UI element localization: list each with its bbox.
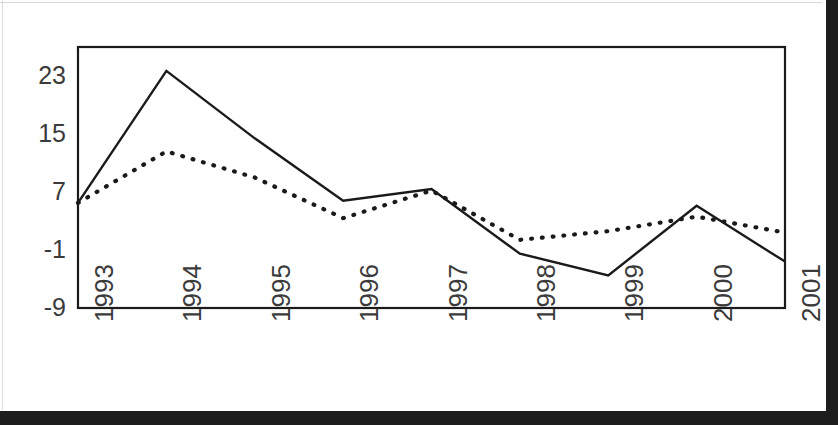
y-tick-label: -1 <box>14 235 66 264</box>
chart-plot-svg <box>0 0 826 411</box>
y-tick-label: 23 <box>14 61 66 90</box>
x-tick-label: 2000 <box>708 264 739 322</box>
x-tick-label: 1995 <box>266 264 297 322</box>
y-tick-label: 7 <box>14 177 66 206</box>
x-tick-label: 1997 <box>443 264 474 322</box>
x-tick-label: 1994 <box>177 264 208 322</box>
series-line-solid <box>78 71 785 275</box>
x-tick-label: 1996 <box>354 264 385 322</box>
x-tick-label: 1993 <box>89 264 120 322</box>
scanned-page: -9-171523 199319941995199619971998199920… <box>0 0 838 425</box>
page-edge-bottom-shadow <box>0 411 838 425</box>
x-tick-label: 1998 <box>531 264 562 322</box>
line-chart: -9-171523 199319941995199619971998199920… <box>0 0 826 411</box>
series-line-dotted <box>78 151 785 239</box>
y-tick-label: 15 <box>14 119 66 148</box>
page-edge-right-shadow <box>826 0 838 425</box>
x-tick-label: 1999 <box>619 264 650 322</box>
y-tick-label: -9 <box>14 293 66 322</box>
